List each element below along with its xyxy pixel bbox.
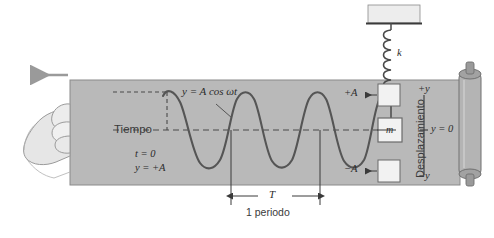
period-caption-label: 1 periodo xyxy=(246,207,290,218)
ceiling-support xyxy=(366,5,422,24)
amplitude-positive-label: +A xyxy=(344,88,358,99)
amplitude-negative-label: −A xyxy=(344,164,358,175)
mass-box-top xyxy=(378,84,400,106)
displacement-axis-label: Desplazamiento xyxy=(414,99,426,178)
initial-displacement-label: y = +A xyxy=(135,163,166,174)
roller-cylinder xyxy=(459,62,481,186)
displacement-positive-label: +y xyxy=(418,84,430,95)
hand-icon xyxy=(24,104,70,178)
period-symbol-label: T xyxy=(269,189,275,200)
time-axis-label: Tiempo xyxy=(114,124,152,136)
figure-canvas: y = A cos ωt Tiempo t = 0 y = +A T 1 per… xyxy=(0,0,494,238)
displacement-zero-label: y = 0 xyxy=(431,124,453,135)
initial-time-label: t = 0 xyxy=(135,149,156,160)
mass-label: m xyxy=(386,125,393,135)
spring-constant-label: k xyxy=(397,48,402,59)
wave-equation-label: y = A cos ωt xyxy=(182,86,237,97)
mass-box-bottom xyxy=(378,160,400,182)
